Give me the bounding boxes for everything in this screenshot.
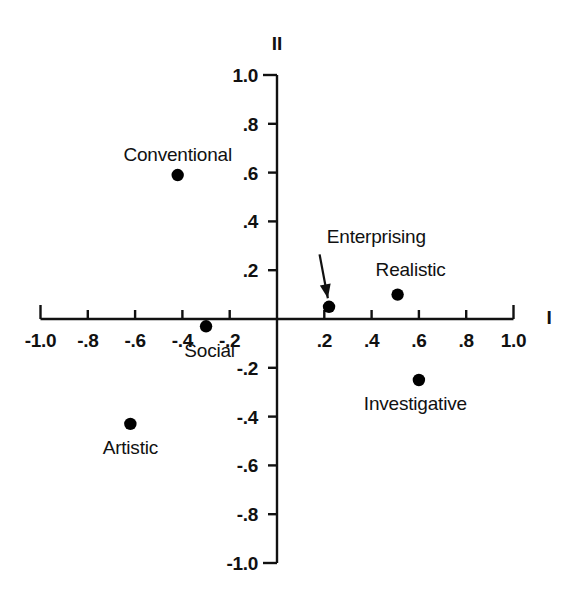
y-tick-label: .2 [243,261,258,280]
y-tick-label: -.6 [237,456,258,475]
x-tick-label: .4 [364,331,379,350]
data-point-label: Investigative [364,394,467,413]
data-points-group [124,169,425,430]
annotation-arrow-group [320,254,331,298]
data-point-label: Conventional [123,145,232,164]
data-point [200,320,212,332]
y-tick-label: .4 [243,212,258,231]
data-point [171,169,183,181]
scatter-plot-figure: -1.0-.8-.6-.4-.2.2.4.6.81.01.0.8.6.4.2-.… [0,0,586,608]
x-tick-label: -.8 [77,331,98,350]
x-tick-label: -1.0 [25,331,57,350]
y-tick-label: .6 [243,163,258,182]
x-tick-label: .2 [317,331,332,350]
annotation-arrow-head [320,283,331,298]
axes-group [41,75,514,563]
x-axis-title: I [547,308,552,327]
x-tick-label: -.6 [124,331,145,350]
x-tick-label: .6 [411,331,426,350]
y-tick-label: -1.0 [226,554,258,573]
x-tick-label: .8 [459,331,474,350]
data-point [323,301,335,313]
y-tick-label: -.4 [237,407,258,426]
data-point-label: Realistic [376,259,446,278]
data-point-label: Enterprising [327,227,426,246]
data-point-label: Social [184,340,235,359]
y-axis-title: II [272,34,283,53]
plot-canvas [0,0,586,608]
y-tick-label: .8 [243,114,258,133]
data-point [413,374,425,386]
x-tick-label: 1.0 [501,331,527,350]
y-tick-label: -.2 [237,358,258,377]
data-point-label: Artistic [103,438,158,457]
data-point [124,418,136,430]
y-tick-label: 1.0 [232,66,258,85]
data-point [391,288,403,300]
y-tick-label: -.8 [237,505,258,524]
